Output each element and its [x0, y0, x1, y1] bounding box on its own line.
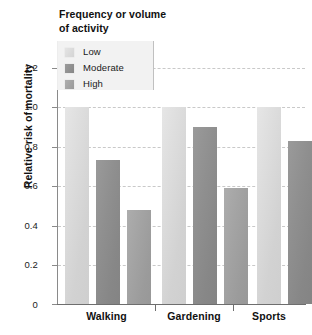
bar-gardening-low	[162, 107, 186, 304]
bar-chart-figure: Relative risk of mortality 1.2 1.0 0.8 0…	[0, 0, 312, 335]
legend-item-high: High	[65, 76, 103, 92]
plot-area	[58, 68, 305, 304]
bar-walking-moderate	[96, 160, 120, 304]
bar-walking-high	[127, 210, 151, 304]
y-tick-label: 0.4	[24, 221, 38, 231]
bar-sports-low	[257, 107, 281, 304]
legend-item-moderate: Moderate	[65, 60, 124, 76]
legend-label-low: Low	[83, 47, 101, 57]
x-axis-group-label-walking: Walking	[58, 310, 155, 322]
legend-swatch-low-icon	[65, 48, 74, 57]
y-tick-label: 1.0	[24, 102, 38, 112]
legend-box: Low Moderate High	[57, 41, 154, 90]
legend-swatch-high-icon	[65, 80, 74, 89]
legend-swatch-moderate-icon	[65, 64, 74, 73]
y-tick-label: 0.2	[24, 260, 38, 270]
y-tick-label: 0.8	[24, 142, 38, 152]
y-axis-tick-labels: 1.2 1.0 0.8 0.6 0.4 0.2 0	[0, 0, 49, 335]
bar-gardening-moderate	[193, 127, 217, 304]
legend-item-low: Low	[65, 44, 101, 60]
bar-sports-moderate	[288, 141, 312, 304]
legend-title: Frequency or volume of activity	[59, 7, 166, 35]
legend-title-line-1: Frequency or volume	[59, 7, 166, 21]
legend-label-moderate: Moderate	[83, 63, 124, 73]
bar-gardening-high	[224, 188, 248, 304]
y-tick-label: 0.6	[24, 181, 38, 191]
legend-title-line-2: of activity	[59, 21, 166, 35]
x-axis-group-label-gardening: Gardening	[155, 310, 233, 322]
x-axis-group-label-sports: Sports	[233, 310, 305, 322]
y-tick-label: 1.2	[24, 63, 38, 73]
x-axis-line	[57, 304, 306, 305]
legend-label-high: High	[83, 79, 103, 89]
bar-walking-low	[65, 107, 89, 304]
y-tick-label: 0	[33, 300, 38, 310]
